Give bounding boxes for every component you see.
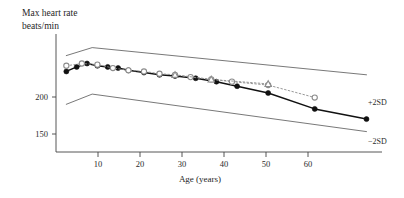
data-point-filled: [74, 64, 79, 69]
y-tick-label-150: 150: [35, 129, 48, 139]
data-point-open: [110, 65, 115, 70]
data-point-filled: [116, 66, 121, 71]
data-point-filled: [364, 117, 369, 122]
x-tick-label-50: 50: [262, 159, 271, 169]
max-heart-rate-chart: Max heart rate beats/min 200 150 10 20 3…: [0, 0, 404, 198]
data-point-open: [95, 62, 100, 67]
data-point-open: [312, 95, 317, 100]
chart-title-line-1: Max heart rate: [22, 8, 77, 18]
data-point-open: [64, 63, 69, 68]
data-point-filled: [312, 106, 317, 111]
data-point-open: [229, 79, 234, 84]
data-point-filled: [266, 91, 271, 96]
x-tick-label-40: 40: [220, 159, 229, 169]
chart-title-line-2: beats/min: [22, 21, 59, 31]
data-point-filled: [64, 69, 69, 74]
plot-area: [64, 48, 369, 132]
series-line-3: [66, 64, 314, 98]
series-line-1: [66, 94, 366, 132]
x-tick-label-30: 30: [178, 159, 187, 169]
data-point-open: [141, 69, 146, 74]
x-axis-label: Age (years): [179, 174, 221, 184]
x-tick-label-10: 10: [94, 159, 103, 169]
data-point-open: [126, 68, 131, 73]
x-tick-label-60: 60: [304, 159, 313, 169]
data-point-open: [157, 71, 162, 76]
data-point-filled: [193, 76, 198, 81]
annotation-plus-2sd: +2SD: [368, 98, 387, 107]
y-tick-label-200: 200: [35, 92, 48, 102]
data-point-filled: [235, 84, 240, 89]
annotation-minus-2sd: −2SD: [368, 137, 387, 146]
x-tick-label-20: 20: [136, 159, 145, 169]
data-point-open: [79, 61, 84, 66]
